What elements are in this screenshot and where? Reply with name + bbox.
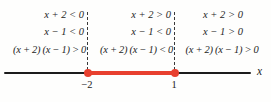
inequality-right-factor2: x − 1 > 0 <box>175 27 271 38</box>
tick-label-neg2: −2 <box>76 79 98 90</box>
region-grid: x + 2 < 0 x + 2 > 0 x + 2 > 0 x − 1 < 0 … <box>0 6 271 59</box>
axis-label-x: x <box>257 65 262 77</box>
boundary-dashed-line-one <box>174 12 175 70</box>
inequality-middle-factor1: x + 2 > 0 <box>88 10 175 21</box>
tick-label-one: 1 <box>163 79 185 90</box>
inequality-left-product: (x + 2) (x − 1) > 0 <box>0 45 88 56</box>
boundary-dashed-line-neg2 <box>87 12 88 70</box>
inequality-left-factor2: x − 1 < 0 <box>0 27 88 38</box>
inequality-left-factor1: x + 2 < 0 <box>0 10 88 21</box>
inequality-right-factor1: x + 2 > 0 <box>175 10 271 21</box>
sign-chart-figure: x + 2 < 0 x + 2 > 0 x + 2 > 0 x − 1 < 0 … <box>0 0 271 102</box>
point-marker-one <box>171 69 179 77</box>
highlight-segment <box>88 71 175 75</box>
inequality-right-product: (x + 2) (x − 1) > 0 <box>175 45 271 56</box>
inequality-middle-product: (x + 2) (x − 1) < 0 <box>88 45 175 56</box>
inequality-middle-factor2: x − 1 < 0 <box>88 27 175 38</box>
point-marker-neg2 <box>84 69 92 77</box>
